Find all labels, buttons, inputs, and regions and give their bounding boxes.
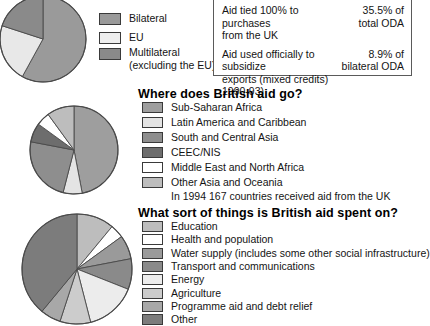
- fact-row: Aid tied 100% to purchases from the UK 3…: [222, 4, 404, 42]
- legend-swatch-energy: [142, 274, 163, 285]
- legend-swatch-latin-america-caribbean: [142, 117, 163, 128]
- pie-chart-aid-channel: [0, 0, 87, 85]
- legend-label: Agriculture: [171, 288, 221, 299]
- section-heading-sector: What sort of things is British aid spent…: [138, 206, 398, 220]
- pie-chart-aid-destination-svg: [20, 96, 128, 204]
- legend-swatch-agriculture: [142, 288, 163, 299]
- legend-label: EU: [129, 32, 144, 43]
- legend-item[interactable]: Other Asia and Oceania: [142, 175, 306, 190]
- legend-label: Other Asia and Oceania: [171, 177, 283, 188]
- legend-swatch-middle-east-north-africa: [142, 162, 163, 173]
- legend-item[interactable]: Bilateral: [99, 9, 215, 28]
- legend-swatch-programme-aid-debt-relief: [142, 301, 163, 312]
- legend-label: Energy: [171, 274, 204, 285]
- legend-label: Programme aid and debt relief: [171, 301, 312, 312]
- legend-label: Other: [171, 314, 197, 325]
- legend-item[interactable]: Latin America and Caribbean: [142, 115, 306, 130]
- fact-line: exports (mixed credits): [222, 73, 334, 86]
- legend-label: Sub-Saharan Africa: [171, 102, 262, 113]
- legend-item[interactable]: Sub-Saharan Africa: [142, 100, 306, 115]
- legend-swatch-other: [142, 314, 163, 325]
- legend-label: Multilateral: [129, 47, 215, 58]
- fact-value: 8.9% of bilateral ODA: [334, 48, 404, 98]
- legend-item[interactable]: Education: [142, 220, 430, 233]
- pie-chart-aid-sector: [19, 211, 135, 326]
- pie-chart-aid-destination: [20, 96, 128, 204]
- legend-item[interactable]: EU: [99, 28, 215, 47]
- fact-value-line: 8.9% of: [334, 48, 404, 61]
- legend-swatch-other-asia-oceania: [142, 177, 163, 188]
- legend-label: Middle East and North Africa: [171, 162, 304, 173]
- fact-line: from the UK: [222, 29, 334, 42]
- fact-value-line: 35.5% of: [334, 4, 404, 17]
- legend-label: Health and population: [171, 234, 273, 245]
- legend-aid-sector: Education Health and population Water su…: [142, 220, 430, 326]
- legend-item[interactable]: Energy: [142, 273, 430, 286]
- legend-label: Bilateral: [129, 13, 167, 24]
- legend-item[interactable]: Programme aid and debt relief: [142, 300, 430, 313]
- legend-aid-channel: Bilateral EU Multilateral (excluding the…: [99, 9, 215, 73]
- legend-swatch-health-population: [142, 234, 163, 245]
- aid-facts-box: Aid tied 100% to purchases from the UK 3…: [213, 0, 412, 76]
- legend-label: Water supply (includes some other social…: [171, 248, 430, 259]
- legend-aid-destination: Sub-Saharan Africa Latin America and Car…: [142, 100, 306, 190]
- legend-label-group: Multilateral (excluding the EU): [129, 47, 215, 71]
- legend-label-sub: (excluding the EU): [129, 60, 215, 71]
- legend-label: South and Central Asia: [171, 132, 278, 143]
- legend-item[interactable]: South and Central Asia: [142, 130, 306, 145]
- legend-item[interactable]: Middle East and North Africa: [142, 160, 306, 175]
- legend-label: Education: [171, 221, 218, 232]
- fact-line: Aid used officially to subsidize: [222, 48, 334, 73]
- legend-swatch-eu: [99, 32, 121, 44]
- legend-swatch-ceec-nis: [142, 147, 163, 158]
- legend-item[interactable]: CEEC/NIS: [142, 145, 306, 160]
- aid-destination-footnote: In 1994 167 countries received aid from …: [171, 190, 390, 202]
- legend-item[interactable]: Multilateral (excluding the EU): [99, 47, 215, 73]
- fact-description: Aid tied 100% to purchases from the UK: [222, 4, 334, 42]
- fact-value-line: bilateral ODA: [334, 60, 404, 73]
- pie-chart-aid-sector-svg: [19, 211, 135, 326]
- fact-value-line: total ODA: [334, 17, 404, 30]
- section-heading-destination: Where does British aid go?: [138, 87, 302, 101]
- legend-swatch-south-central-asia: [142, 132, 163, 143]
- legend-item[interactable]: Agriculture: [142, 286, 430, 299]
- legend-item[interactable]: Water supply (includes some other social…: [142, 247, 430, 260]
- legend-swatch-sub-saharan-africa: [142, 102, 163, 113]
- fact-line: Aid tied 100% to purchases: [222, 4, 334, 29]
- legend-swatch-bilateral: [99, 13, 121, 25]
- legend-swatch-water-supply: [142, 248, 163, 259]
- legend-item[interactable]: Other: [142, 313, 430, 326]
- legend-swatch-transport-communications: [142, 261, 163, 272]
- pie-slice: [74, 106, 118, 193]
- legend-swatch-education: [142, 221, 163, 232]
- fact-value: 35.5% of total ODA: [334, 4, 404, 42]
- legend-swatch-multilateral: [99, 48, 121, 60]
- legend-label: CEEC/NIS: [171, 147, 221, 158]
- legend-label: Latin America and Caribbean: [171, 117, 306, 128]
- legend-label: Transport and communications: [171, 261, 315, 272]
- pie-chart-aid-channel-svg: [0, 0, 87, 85]
- legend-item[interactable]: Transport and communications: [142, 260, 430, 273]
- legend-item[interactable]: Health and population: [142, 233, 430, 246]
